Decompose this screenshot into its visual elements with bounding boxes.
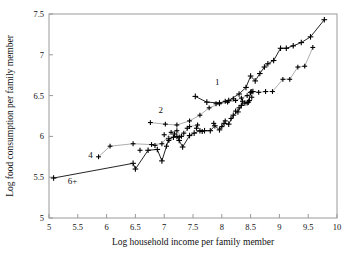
data-point-marker: [180, 144, 186, 150]
x-tick-label: 10: [333, 222, 342, 232]
y-tick-label: 7: [40, 50, 44, 60]
chart-figure: 55.566.577.588.599.51055.566.577.5Log ho…: [0, 0, 351, 253]
y-axis-title: Log food consumption per family member: [5, 34, 15, 197]
data-point-marker: [290, 43, 296, 49]
data-point-marker: [131, 141, 136, 146]
x-tick-label: 8: [220, 222, 224, 232]
data-point-marker: [226, 121, 232, 127]
data-point-marker: [130, 161, 136, 167]
series-annotation-4: 4: [88, 150, 93, 160]
x-tick-label: 7: [162, 222, 166, 232]
series-line-6plus: [54, 92, 253, 179]
data-point-marker: [295, 65, 300, 70]
data-point-marker: [223, 118, 228, 123]
y-tick-label: 6: [40, 131, 44, 141]
series-line-1: [195, 20, 324, 103]
series-annotation-1: 1: [215, 77, 220, 87]
y-tick-label: 5: [40, 213, 44, 223]
data-point-marker: [263, 89, 268, 94]
series-annotation-2: 2: [158, 105, 163, 115]
data-point-marker: [298, 40, 304, 46]
data-point-marker: [133, 166, 139, 172]
x-tick-label: 5: [47, 222, 51, 232]
data-point-marker: [149, 142, 154, 147]
y-tick-label: 7.5: [33, 9, 44, 19]
y-tick-label: 5.5: [33, 172, 44, 182]
data-point-marker: [163, 122, 168, 127]
data-point-marker: [204, 99, 210, 105]
scatter-plot: 55.566.577.588.599.51055.566.577.5Log ho…: [0, 0, 351, 253]
data-point-marker: [310, 45, 315, 50]
data-point-marker: [138, 148, 143, 153]
data-point-marker: [211, 121, 216, 126]
x-tick-label: 8.5: [245, 222, 256, 232]
x-tick-label: 6.5: [130, 222, 141, 232]
data-point-marker: [51, 175, 57, 181]
data-point-marker: [148, 120, 153, 125]
data-point-marker: [193, 94, 199, 100]
data-point-marker: [256, 90, 261, 95]
series-annotation-6plus: 6+: [68, 176, 78, 186]
x-tick-label: 5.5: [72, 222, 83, 232]
x-tick-label: 7.5: [188, 222, 199, 232]
y-tick-label: 6.5: [33, 91, 44, 101]
data-point-marker: [159, 158, 165, 164]
data-point-marker: [152, 143, 157, 148]
data-point-marker: [200, 129, 205, 134]
data-point-marker: [278, 45, 284, 51]
data-point-marker: [164, 144, 169, 149]
data-point-marker: [302, 64, 307, 69]
data-point-marker: [187, 118, 192, 123]
data-point-marker: [174, 123, 179, 128]
plot-frame: [49, 14, 337, 218]
x-axis-title: Log household income per family member: [112, 237, 275, 247]
data-point-marker: [194, 126, 199, 131]
data-point-marker: [145, 147, 151, 153]
x-tick-label: 9: [277, 222, 281, 232]
data-point-marker: [284, 45, 290, 51]
series-line-2: [150, 47, 312, 125]
x-tick-label: 9.5: [303, 222, 314, 232]
x-tick-label: 6: [104, 222, 108, 232]
data-point-marker: [271, 58, 277, 64]
data-point-marker: [287, 77, 292, 82]
data-point-marker: [162, 132, 167, 137]
